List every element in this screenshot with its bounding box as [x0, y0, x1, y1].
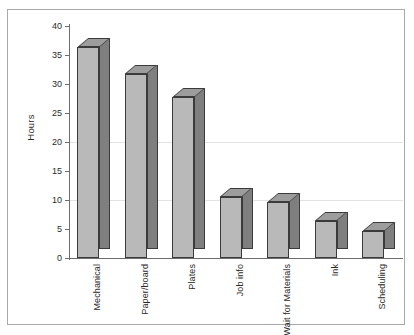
- bar-side-face: [99, 38, 110, 249]
- y-axis-tick-mark: [65, 113, 69, 114]
- plot-area: [70, 26, 403, 258]
- gridline: [70, 142, 403, 143]
- bar-front-face: [77, 47, 99, 258]
- y-axis-tick-mark: [65, 142, 69, 143]
- x-axis-category-label: Job info: [235, 264, 245, 296]
- y-axis-tick-label: 10: [38, 196, 62, 205]
- bar-side-face: [289, 193, 300, 249]
- bar: [362, 222, 395, 258]
- y-axis-tick-label: 20: [38, 138, 62, 147]
- bar-front-face: [315, 221, 337, 258]
- y-axis-tick-mark: [65, 229, 69, 230]
- bar-front-face: [125, 74, 147, 258]
- y-axis-tick-label: 15: [38, 167, 62, 176]
- y-axis-tick-label: 5: [38, 225, 62, 234]
- x-axis-category-label: Wait for Materials: [282, 264, 292, 335]
- bar-side-face: [147, 65, 158, 249]
- x-axis-category-label: Plates: [187, 264, 197, 290]
- x-axis-category-label: Mechanical: [92, 264, 102, 311]
- bar: [315, 212, 348, 258]
- y-axis-tick-mark: [65, 171, 69, 172]
- bar: [77, 38, 110, 258]
- x-axis-category-label: Paper/board: [140, 264, 150, 315]
- bar-front-face: [220, 197, 242, 258]
- y-axis-tick-label: 0: [38, 254, 62, 263]
- y-axis-tick-label: 25: [38, 109, 62, 118]
- bar: [267, 193, 300, 258]
- y-axis-tick-mark: [65, 55, 69, 56]
- bar-side-face: [194, 88, 205, 249]
- y-axis-tick-mark: [65, 84, 69, 85]
- bar-front-face: [172, 97, 194, 258]
- cropped-title-remnant: ·: [110, 0, 310, 5]
- bar-front-face: [267, 202, 289, 258]
- y-axis-tick-mark: [65, 258, 69, 259]
- bar-side-face: [242, 188, 253, 249]
- bar-front-face: [362, 231, 384, 258]
- bar: [172, 88, 205, 258]
- y-axis-tick-mark: [65, 26, 69, 27]
- y-axis-tick-label: 40: [38, 22, 62, 31]
- bar: [220, 188, 253, 258]
- y-axis-tick-labels: 4035302520151050: [34, 10, 62, 310]
- x-axis-category-label: Scheduling: [377, 264, 387, 310]
- y-axis-tick-label: 30: [38, 80, 62, 89]
- y-axis-tick-label: 35: [38, 51, 62, 60]
- bar: [125, 65, 158, 258]
- chart-frame: Hours 4035302520151050 MechanicalPaper/b…: [7, 9, 405, 325]
- y-axis-tick-mark: [65, 200, 69, 201]
- x-axis-line: [69, 258, 403, 259]
- x-axis-category-label: Ink: [330, 264, 340, 276]
